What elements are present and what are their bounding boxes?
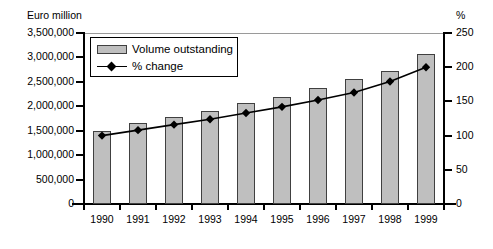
x-tick-label: 1999 (406, 213, 446, 225)
x-tick-label: 1993 (190, 213, 230, 225)
y-tick-label-right: 150 (456, 95, 490, 105)
x-tick-label: 1991 (118, 213, 158, 225)
x-tick (227, 204, 229, 210)
x-tick (191, 204, 193, 210)
legend-label-percent-change: % change (132, 60, 183, 72)
y-tick-label-right: 200 (456, 61, 490, 71)
y-tick-label-left: 0 (0, 198, 74, 208)
line-marker (350, 88, 358, 96)
line-marker (386, 77, 394, 85)
y-tick-label-left: 500,000 (0, 174, 74, 184)
x-tick-label: 1990 (82, 213, 122, 225)
x-tick-label: 1997 (334, 213, 374, 225)
x-tick (371, 204, 373, 210)
y-tick-right (443, 135, 452, 137)
x-tick-label: 1992 (154, 213, 194, 225)
y-tick-label-left: 3,000,000 (0, 51, 74, 61)
legend-item-volume-outstanding: Volume outstanding (97, 41, 233, 57)
x-tick-label: 1998 (370, 213, 410, 225)
legend-label-volume-outstanding: Volume outstanding (132, 43, 233, 55)
chart-legend: Volume outstanding % change (90, 37, 238, 77)
y-tick-label-right: 50 (456, 164, 490, 174)
legend-item-percent-change: % change (97, 58, 183, 74)
line-marker (206, 115, 214, 123)
x-tick-label: 1996 (298, 213, 338, 225)
line-marker (278, 103, 286, 111)
line-diamond-swatch-icon (97, 62, 127, 71)
y-axis-left-title: Euro million (27, 9, 82, 21)
y-axis-right-title: % (456, 9, 465, 21)
y-tick-label-left: 2,000,000 (0, 100, 74, 110)
y-tick-label-right: 250 (456, 27, 490, 37)
y-tick-label-left: 1,000,000 (0, 149, 74, 159)
y-tick-right (443, 100, 452, 102)
line-marker (242, 109, 250, 117)
chart-container: Euro million % Volume outstanding % chan… (0, 0, 493, 249)
x-tick (443, 204, 445, 210)
x-tick (263, 204, 265, 210)
line-marker (98, 131, 106, 139)
y-tick-right (443, 32, 452, 34)
y-tick-right (443, 66, 452, 68)
y-tick-label-left: 3,500,000 (0, 27, 74, 37)
line-marker (134, 126, 142, 134)
x-tick (155, 204, 157, 210)
y-tick-label-right: 100 (456, 130, 490, 140)
x-tick (119, 204, 121, 210)
x-tick-label: 1995 (262, 213, 302, 225)
y-tick-label-left: 1,500,000 (0, 125, 74, 135)
bar-swatch-icon (97, 45, 127, 54)
line-marker (314, 96, 322, 104)
x-tick (83, 204, 85, 210)
x-tick-label: 1994 (226, 213, 266, 225)
y-tick-label-left: 2,500,000 (0, 76, 74, 86)
y-tick-right (443, 169, 452, 171)
line-marker (170, 120, 178, 128)
x-tick (407, 204, 409, 210)
y-tick-label-right: 0 (456, 198, 490, 208)
x-tick (299, 204, 301, 210)
x-tick (335, 204, 337, 210)
line-marker (422, 63, 430, 71)
